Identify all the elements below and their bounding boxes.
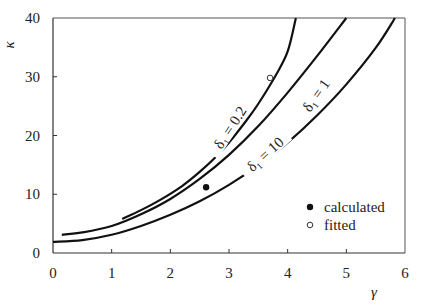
y-axis-label: κ bbox=[1, 41, 17, 49]
y-tick-label: 40 bbox=[25, 10, 40, 26]
curve-series-0 bbox=[122, 18, 296, 219]
curve-label-delta-0.2: δ₁ = 0.2 bbox=[205, 95, 255, 160]
y-tick-label: 20 bbox=[25, 128, 40, 144]
calculated-point bbox=[203, 184, 209, 190]
legend-calculated-label: calculated bbox=[324, 199, 385, 215]
svg-text:δ₁ = 1: δ₁ = 1 bbox=[299, 76, 333, 114]
y-tick-label: 10 bbox=[25, 186, 40, 202]
y-tick-label: 30 bbox=[25, 69, 40, 85]
curve-series-1 bbox=[62, 18, 347, 235]
x-tick-label: 6 bbox=[401, 265, 409, 281]
x-tick-label: 4 bbox=[284, 265, 292, 281]
x-tick-label: 5 bbox=[343, 265, 351, 281]
curve-label-delta-1: δ₁ = 1 bbox=[295, 71, 336, 120]
y-tick-label: 0 bbox=[33, 245, 41, 261]
curve-label-delta-10: δ₁ = 10 bbox=[237, 127, 293, 180]
svg-text:δ₁ = 10: δ₁ = 10 bbox=[244, 134, 287, 175]
x-tick-label: 3 bbox=[225, 265, 233, 281]
svg-text:δ₁ = 0.2: δ₁ = 0.2 bbox=[211, 103, 250, 151]
legend-fitted-icon bbox=[307, 222, 313, 228]
x-tick-label: 2 bbox=[167, 265, 175, 281]
x-tick-label: 0 bbox=[49, 265, 57, 281]
x-axis-label: γ bbox=[371, 284, 378, 300]
legend-fitted-label: fitted bbox=[324, 217, 356, 233]
x-tick-label: 1 bbox=[108, 265, 116, 281]
legend: calculated fitted bbox=[307, 199, 385, 233]
fitted-point bbox=[267, 75, 273, 81]
legend-calculated-icon bbox=[307, 204, 313, 210]
chart: 0123456010203040 δ₁ = 0.2 δ₁ = 1 δ₁ = 10… bbox=[0, 0, 422, 308]
